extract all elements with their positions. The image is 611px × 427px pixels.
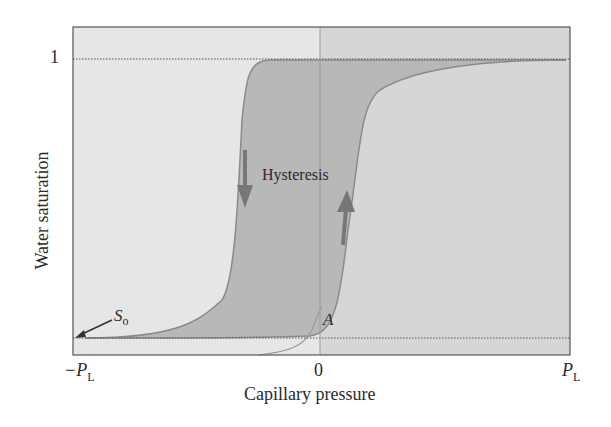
x-tick-neg-sub: L xyxy=(87,370,94,384)
x-tick-pos-text: P xyxy=(562,360,573,380)
s-o-text: S xyxy=(114,306,123,325)
hysteresis-label: Hysteresis xyxy=(262,166,329,184)
x-tick-neg-text: −P xyxy=(64,360,87,380)
x-tick-pos-pl: PL xyxy=(562,360,580,385)
x-axis-label: Capillary pressure xyxy=(244,384,375,405)
point-a-label: A xyxy=(323,310,333,330)
y-tick-one: 1 xyxy=(50,47,59,68)
x-tick-pos-sub: L xyxy=(573,370,580,384)
s-o-sub: o xyxy=(123,314,129,328)
x-tick-neg-pl: −PL xyxy=(64,360,95,385)
x-tick-zero: 0 xyxy=(314,360,323,381)
y-axis-label: Water saturation xyxy=(32,131,53,291)
s-o-label: So xyxy=(114,306,129,329)
